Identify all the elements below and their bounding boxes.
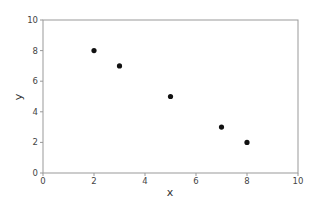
data-point <box>219 125 224 130</box>
y-axis-ticks: 0246810 <box>27 15 43 178</box>
data-point <box>244 140 249 145</box>
x-tick-label: 2 <box>91 176 96 186</box>
y-tick-label: 8 <box>33 46 38 56</box>
y-axis-label: y <box>12 93 25 100</box>
y-tick-label: 10 <box>27 15 38 25</box>
x-tick-label: 8 <box>244 176 249 186</box>
y-tick-label: 2 <box>33 137 38 147</box>
scatter-chart: 0246810 0246810 x y <box>0 0 315 203</box>
x-tick-label: 0 <box>40 176 45 186</box>
x-axis-ticks: 0246810 <box>40 173 303 186</box>
x-axis-label: x <box>167 186 174 199</box>
data-point <box>91 48 96 53</box>
x-tick-label: 10 <box>293 176 304 186</box>
x-tick-label: 4 <box>142 176 147 186</box>
x-tick-label: 6 <box>193 176 198 186</box>
y-tick-label: 0 <box>33 168 38 178</box>
y-tick-label: 4 <box>33 107 38 117</box>
y-tick-label: 6 <box>33 76 38 86</box>
data-point <box>168 94 173 99</box>
data-point <box>117 63 122 68</box>
